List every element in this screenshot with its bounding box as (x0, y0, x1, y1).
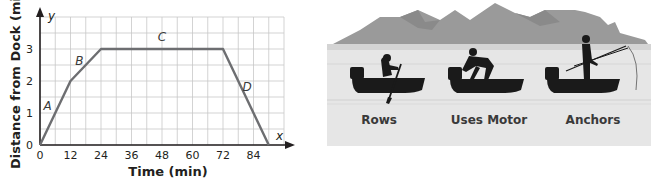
segment-label-b: B (75, 54, 83, 68)
person-head (469, 48, 477, 56)
x-tick-label: 36 (125, 149, 139, 162)
x-tick-label: 72 (216, 149, 230, 162)
x-tick-label: 48 (155, 149, 169, 162)
x-tick-label: 24 (94, 149, 108, 162)
distance-time-chart: y x 012243648607284 0123 ABCD Time (min)… (0, 0, 320, 185)
y-tick-labels: 0123 (26, 43, 33, 152)
y-tick-label: 2 (26, 75, 33, 88)
motor-icon (350, 67, 364, 79)
segment-label-a: A (43, 99, 52, 113)
person-head (582, 35, 590, 43)
motor-icon (545, 67, 559, 80)
x-axis-letter: x (275, 129, 284, 143)
label-anchors: Anchors (566, 113, 621, 127)
x-axis-arrow-icon (285, 141, 295, 149)
shoreline (327, 44, 651, 50)
y-tick-label: 0 (26, 139, 33, 152)
segment-label-c: C (158, 30, 167, 44)
x-tick-label: 84 (247, 149, 261, 162)
x-axis-title: Time (min) (128, 164, 207, 179)
y-axis-arrow-icon (36, 7, 44, 17)
y-axis-title: Distance from Dock (mi) (8, 0, 23, 169)
y-tick-label: 3 (26, 43, 33, 56)
water-background (327, 44, 651, 146)
label-rows: Rows (361, 113, 397, 127)
mountains (333, 3, 648, 44)
motor-icon (448, 67, 462, 80)
segment-label-d: D (243, 80, 252, 94)
x-tick-labels: 012243648607284 (37, 149, 261, 162)
label-uses-motor: Uses Motor (451, 113, 528, 127)
x-tick-label: 0 (37, 149, 44, 162)
boat-illustration: Rows Uses Motor Anchors (327, 0, 655, 150)
y-tick-label: 1 (26, 107, 33, 120)
y-axis-letter: y (47, 9, 56, 23)
x-tick-label: 12 (64, 149, 78, 162)
x-tick-label: 60 (186, 149, 200, 162)
